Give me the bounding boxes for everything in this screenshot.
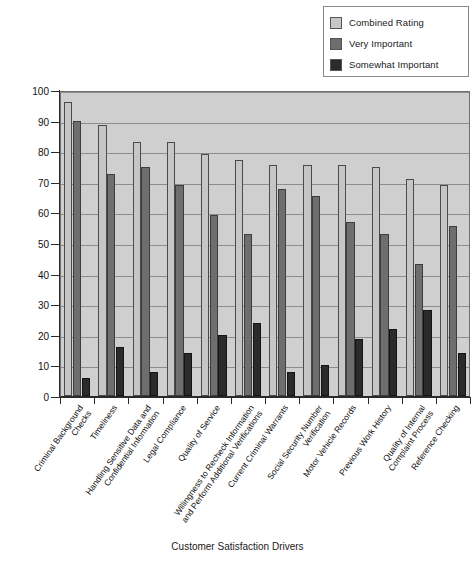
y-axis-tick [51, 397, 59, 398]
legend-swatch-very-important [330, 38, 342, 50]
bar [64, 102, 72, 396]
y-axis-tick [51, 183, 59, 184]
bar [269, 165, 277, 396]
legend-swatch-combined-rating [330, 17, 342, 29]
bar [210, 215, 218, 396]
gridline [61, 92, 469, 93]
bar [372, 167, 380, 397]
y-axis-tick-label: 10 [5, 361, 49, 372]
bar [415, 264, 423, 396]
y-axis-tick-label: 100 [5, 86, 49, 97]
bar [287, 372, 295, 396]
bar [218, 335, 226, 396]
bar [244, 234, 252, 396]
y-axis-tick-label: 20 [5, 330, 49, 341]
bar [312, 196, 320, 396]
bar [278, 189, 286, 396]
gridline [61, 153, 469, 154]
bar [150, 372, 158, 396]
bar [321, 365, 329, 396]
y-axis-tick-label: 90 [5, 116, 49, 127]
gridline [61, 123, 469, 124]
bar [167, 142, 175, 396]
y-axis-tick-label: 30 [5, 300, 49, 311]
bar [184, 353, 192, 396]
bar [389, 329, 397, 396]
bar [73, 121, 81, 396]
y-axis-tick-label: 40 [5, 269, 49, 280]
bar [355, 339, 363, 396]
x-axis-category-labels: Criminal BackgroundChecksTimelinessHandl… [0, 397, 475, 537]
category-label-line: and Perform Additional Verifications [179, 409, 264, 525]
bar [380, 234, 388, 396]
y-axis-tick [51, 91, 59, 92]
y-axis-tick [51, 336, 59, 337]
bar [338, 165, 346, 396]
y-axis-tick-label: 60 [5, 208, 49, 219]
y-axis-tick-label: 80 [5, 147, 49, 158]
chart-page: Combined Rating Very Important Somewhat … [0, 0, 475, 579]
category-label-line: Timeliness [88, 403, 119, 442]
bar [458, 353, 466, 396]
bar [423, 310, 431, 396]
legend-label-very-important: Very Important [349, 38, 412, 49]
bar [133, 142, 141, 396]
y-axis-tick [51, 305, 59, 306]
legend-item-somewhat-important: Somewhat Important [330, 54, 463, 75]
x-axis-category-label: Timeliness [88, 403, 119, 442]
y-axis-line [59, 90, 60, 398]
category-label-line: Handling Sensitive Data and [84, 403, 154, 497]
legend-swatch-somewhat-important [330, 59, 342, 71]
legend-label-somewhat-important: Somewhat Important [349, 59, 438, 70]
plot-area [60, 91, 470, 397]
bar [235, 160, 243, 396]
bar [346, 222, 354, 396]
x-axis-title: Customer Satisfaction Drivers [0, 541, 475, 552]
x-axis-category-label: Criminal BackgroundChecks [32, 403, 94, 479]
bar [406, 179, 414, 396]
y-axis-tick [51, 244, 59, 245]
bar [98, 125, 106, 396]
bar [303, 165, 311, 396]
y-axis-tick [51, 152, 59, 153]
legend-item-very-important: Very Important [330, 33, 463, 54]
bar [141, 167, 149, 397]
y-axis-tick-label: 50 [5, 239, 49, 250]
legend-label-combined-rating: Combined Rating [349, 17, 424, 28]
bar [107, 174, 115, 396]
bar [201, 154, 209, 396]
y-axis-tick [51, 366, 59, 367]
bar [440, 185, 448, 396]
legend-item-combined-rating: Combined Rating [330, 12, 463, 33]
y-axis-tick [51, 122, 59, 123]
bar [175, 185, 183, 396]
bar [449, 226, 457, 396]
bar [253, 323, 261, 396]
y-axis-tick [51, 275, 59, 276]
bar [82, 378, 90, 396]
bar [116, 347, 124, 396]
chart-legend: Combined Rating Very Important Somewhat … [323, 6, 469, 77]
y-axis-tick [51, 213, 59, 214]
y-axis-tick-label: 70 [5, 177, 49, 188]
